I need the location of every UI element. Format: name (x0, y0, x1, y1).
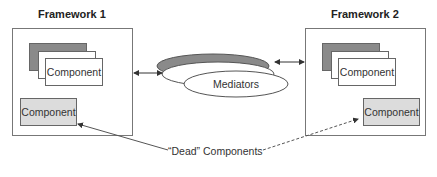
arrow-dead-label-to-framework1 (78, 124, 168, 150)
mediators-label: Mediators (213, 78, 259, 90)
arrow-dead-label-to-framework2 (263, 119, 358, 150)
mediators-ellipse-stack (157, 54, 288, 97)
dead-components-label: “Dead” Components (168, 145, 263, 157)
